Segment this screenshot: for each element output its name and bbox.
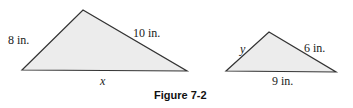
large-triangle: 8 in. 10 in. x — [8, 10, 187, 88]
large-left-side-label: 8 in. — [8, 33, 29, 47]
small-base-label: 9 in. — [272, 74, 293, 88]
large-triangle-shape — [22, 10, 187, 71]
small-right-side-label: 6 in. — [304, 41, 325, 55]
figure-canvas: 8 in. 10 in. x y 6 in. 9 in. Figure 7-2 — [0, 0, 353, 108]
large-base-label: x — [99, 74, 106, 88]
small-triangle: y 6 in. 9 in. — [226, 32, 336, 88]
small-left-side-label: y — [239, 42, 246, 56]
figure-caption: Figure 7-2 — [154, 89, 207, 101]
large-right-side-label: 10 in. — [133, 26, 160, 40]
